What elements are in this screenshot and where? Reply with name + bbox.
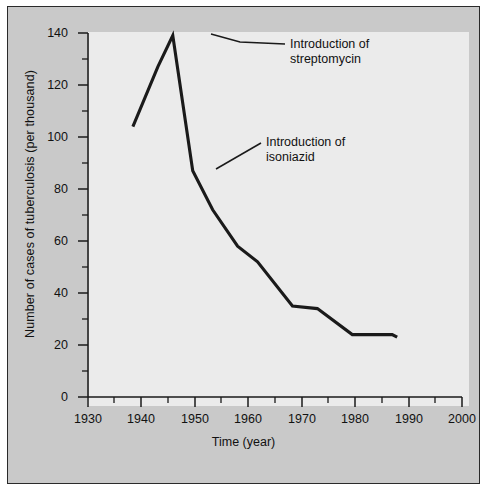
annotation-streptomycin-line1: Introduction of xyxy=(290,37,369,52)
xtick-label-1950: 1950 xyxy=(165,412,225,426)
annotation-isoniazid-line1: Introduction of xyxy=(266,135,345,150)
xtick-label-1980: 1980 xyxy=(325,412,385,426)
data-series-line xyxy=(133,36,397,338)
xtick-label-1930: 1930 xyxy=(58,412,118,426)
annotation-streptomycin-line2: streptomycin xyxy=(290,52,369,67)
y-minor-ticks xyxy=(82,59,88,371)
annotation-isoniazid-line2: isoniazid xyxy=(266,150,345,165)
y-axis-title: Number of cases of tuberculosis (per tho… xyxy=(23,54,37,354)
ytick-label-0: 0 xyxy=(22,390,68,404)
ytick-label-140: 140 xyxy=(22,26,68,40)
xtick-label-1970: 1970 xyxy=(272,412,332,426)
xtick-label-1990: 1990 xyxy=(379,412,439,426)
xtick-label-1940: 1940 xyxy=(111,412,171,426)
xtick-label-1960: 1960 xyxy=(218,412,278,426)
x-minor-ticks xyxy=(114,397,435,403)
xtick-label-2000: 2000 xyxy=(432,412,480,426)
leader-line-streptomycin xyxy=(211,34,285,44)
figure-panel: 140 120 100 80 60 40 20 0 1930 1940 1950… xyxy=(7,6,480,484)
annotation-streptomycin: Introduction of streptomycin xyxy=(290,37,369,68)
figure-caption xyxy=(8,486,479,496)
x-axis-title: Time (year) xyxy=(8,435,479,449)
leader-line-isoniazid xyxy=(216,143,261,169)
annotation-isoniazid: Introduction of isoniazid xyxy=(266,135,345,166)
